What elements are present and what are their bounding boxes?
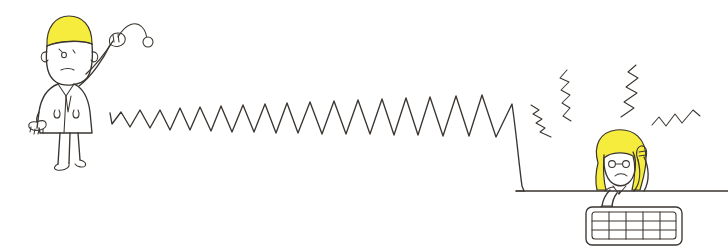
worker-mouth	[615, 174, 627, 176]
worker-typing-arm	[602, 190, 610, 206]
stress-mark-right-high	[621, 65, 638, 117]
thrower-tie	[66, 96, 71, 112]
thrower-figure	[29, 16, 125, 170]
stress-mark-right-low	[652, 110, 700, 126]
thrower-mouth	[61, 69, 74, 71]
thrower-head	[46, 44, 92, 85]
thrower-collar	[58, 84, 74, 96]
worker-typing-arm-inner	[612, 193, 617, 208]
cartoon-drawing	[0, 0, 728, 252]
zigzag-signal-line	[110, 95, 524, 191]
thrower-eye-left	[62, 52, 67, 58]
illustration-canvas	[0, 0, 728, 252]
thrower-eyebrow-left	[59, 49, 62, 52]
thrower-coat-front	[64, 96, 66, 133]
thrower-leg-left	[58, 133, 60, 164]
computer-keyboard[interactable]	[586, 207, 682, 245]
thrower-throwing-hand	[109, 33, 125, 47]
thrower-pocket-right	[54, 110, 60, 118]
stress-lightning-marks	[531, 65, 700, 137]
thrower-shoe-right	[75, 160, 86, 167]
thrower-leg-left-inner	[69, 133, 70, 163]
stress-mark-left-low	[531, 105, 551, 137]
worker-head	[604, 152, 636, 186]
thrower-eyebrow-right	[73, 50, 75, 53]
worker-eye-left	[609, 161, 616, 168]
thrower-pocket-left	[73, 110, 79, 118]
thrower-shoe-left	[54, 163, 69, 170]
worker-eye-right	[623, 161, 630, 168]
stress-mark-left-high	[560, 70, 571, 121]
thrown-ball	[143, 37, 153, 47]
throw-trajectory-arc	[118, 24, 147, 42]
thrower-leg-right	[78, 133, 80, 160]
